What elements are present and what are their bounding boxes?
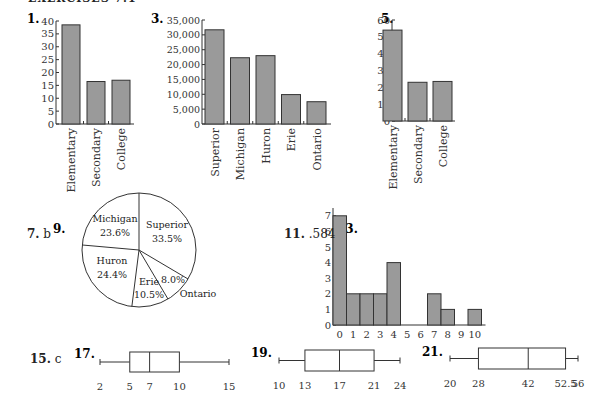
bar bbox=[441, 309, 455, 325]
x-tick-label: 1 bbox=[350, 329, 356, 340]
bar bbox=[374, 294, 388, 325]
y-tick-label: 15,000 bbox=[167, 74, 200, 85]
x-tick-label: 4 bbox=[391, 329, 397, 340]
x-tick-label: 0 bbox=[337, 329, 343, 340]
y-tick-label: 30,000 bbox=[167, 29, 200, 40]
value-label: 21 bbox=[368, 380, 381, 391]
exercise-label: 3. bbox=[151, 12, 164, 26]
y-tick-label: 0 bbox=[325, 320, 331, 331]
exercise-label: 19. bbox=[251, 346, 272, 360]
slice-name: Erie bbox=[139, 276, 160, 287]
chart-ex13: 13.01234567012345678910 bbox=[325, 208, 486, 340]
bar bbox=[87, 82, 105, 124]
x-category-label: College bbox=[437, 125, 450, 167]
x-category-label: Elementary bbox=[65, 127, 78, 192]
bar bbox=[231, 58, 250, 124]
answer-7: 7. b bbox=[27, 227, 51, 241]
bar bbox=[433, 81, 452, 121]
bar bbox=[383, 30, 402, 121]
charts-canvas: 1.0510152025303540ElementarySecondaryCol… bbox=[0, 0, 612, 415]
chart-ex17: 17.2571015 bbox=[74, 347, 235, 392]
answer-7-value: b bbox=[43, 227, 51, 241]
value-label: 56 bbox=[572, 378, 585, 389]
slice-name: Ontario bbox=[180, 288, 217, 299]
slice-percent: 10.5% bbox=[134, 289, 164, 300]
y-tick-label: 30 bbox=[41, 41, 54, 52]
x-tick-label: 8 bbox=[445, 329, 451, 340]
y-tick-label: 5 bbox=[48, 106, 54, 117]
chart-ex1: 1.0510152025303540ElementarySecondaryCol… bbox=[27, 12, 134, 193]
exercise-answers-page: EXERCISES 7.1 1.0510152025303540Elementa… bbox=[0, 0, 612, 415]
bar bbox=[256, 56, 275, 124]
y-tick-label: 15 bbox=[41, 80, 54, 91]
y-tick-label: 25 bbox=[41, 54, 54, 65]
value-label: 24 bbox=[394, 380, 407, 391]
value-label: 15 bbox=[223, 381, 236, 392]
value-label: 17 bbox=[333, 380, 346, 391]
chart-ex19: 19.1013172124 bbox=[251, 346, 406, 391]
x-category-label: Elementary bbox=[387, 124, 400, 189]
value-label: 28 bbox=[472, 378, 485, 389]
bar bbox=[307, 102, 326, 124]
y-tick-label: 20 bbox=[41, 67, 54, 78]
x-category-label: Ontario bbox=[311, 128, 324, 171]
x-tick-label: 10 bbox=[468, 329, 481, 340]
chart-ex9: 9.Superior33.5%Michigan23.6%Huron24.4%Er… bbox=[53, 193, 217, 307]
y-tick-label: 25,000 bbox=[167, 44, 200, 55]
y-tick-label: 7 bbox=[325, 210, 331, 221]
y-tick-label: 0 bbox=[194, 119, 200, 130]
answer-7-label: 7. bbox=[27, 227, 40, 241]
slice-name: Huron bbox=[97, 255, 128, 266]
x-category-label: Michigan bbox=[234, 128, 247, 180]
slice-name: Michigan bbox=[92, 213, 137, 224]
y-tick-label: 4 bbox=[325, 257, 331, 268]
y-tick-label: 35 bbox=[41, 28, 54, 39]
answer-15-label: 15. bbox=[30, 352, 51, 366]
bar bbox=[282, 95, 301, 124]
y-tick-label: 2 bbox=[325, 288, 331, 299]
y-tick-label: 3 bbox=[325, 273, 331, 284]
x-tick-label: 5 bbox=[404, 329, 410, 340]
x-tick-label: 9 bbox=[458, 329, 464, 340]
x-category-label: Secondary bbox=[412, 124, 425, 184]
slice-name: Superior bbox=[146, 219, 189, 230]
y-tick-label: 10,000 bbox=[167, 89, 200, 100]
slice-percent: 23.6% bbox=[100, 227, 130, 238]
bar bbox=[428, 294, 442, 325]
y-tick-label: 20,000 bbox=[167, 59, 200, 70]
chart-ex3: 3.05,00010,00015,00020,00025,00030,00035… bbox=[151, 12, 331, 180]
bar bbox=[347, 294, 361, 325]
x-category-label: Secondary bbox=[90, 127, 103, 187]
x-category-label: Superior bbox=[209, 127, 222, 177]
answer-15: 15. c bbox=[30, 352, 61, 366]
value-label: 42 bbox=[522, 378, 535, 389]
exercise-label: 1. bbox=[27, 12, 40, 26]
y-tick-label: 5 bbox=[325, 242, 331, 253]
y-tick-label: 5,000 bbox=[173, 104, 200, 115]
answer-11-value: .584 bbox=[309, 227, 336, 241]
slice-percent: 33.5% bbox=[152, 233, 182, 244]
answer-11-label: 11. bbox=[284, 227, 305, 241]
bar bbox=[387, 263, 401, 325]
answer-11: 11. .584 bbox=[284, 227, 335, 241]
exercise-label: 9. bbox=[53, 222, 66, 236]
y-tick-label: 0 bbox=[48, 119, 54, 130]
slice-percent: 8.0% bbox=[161, 274, 185, 285]
x-tick-label: 2 bbox=[364, 329, 370, 340]
bar bbox=[360, 294, 374, 325]
value-label: 2 bbox=[97, 381, 103, 392]
box bbox=[130, 352, 180, 372]
y-tick-label: 10 bbox=[41, 93, 54, 104]
bar bbox=[408, 82, 427, 121]
slice-percent: 24.4% bbox=[97, 269, 127, 280]
y-tick-label: 35,000 bbox=[167, 15, 200, 26]
answer-15-value: c bbox=[55, 352, 62, 366]
x-tick-label: 3 bbox=[377, 329, 383, 340]
bar bbox=[112, 80, 130, 124]
chart-ex5: 5.0102030405060ElementarySecondaryColleg… bbox=[377, 12, 455, 190]
x-tick-label: 6 bbox=[418, 329, 424, 340]
bar bbox=[468, 309, 482, 325]
value-label: 10 bbox=[273, 380, 286, 391]
chart-ex21: 21.20284252.556 bbox=[422, 345, 584, 389]
y-tick-label: 40 bbox=[41, 16, 54, 27]
